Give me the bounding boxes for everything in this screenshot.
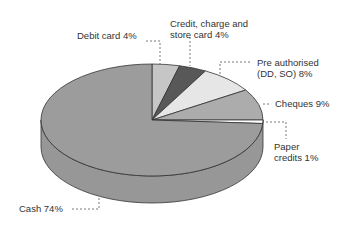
label-debit-card: Debit card 4% [77, 30, 137, 41]
label-credit-line2: store card 4% [170, 29, 229, 40]
label-cash: Cash 74% [19, 203, 63, 214]
leader-preauth [220, 62, 250, 74]
label-cheques: Cheques 9% [275, 98, 329, 109]
label-credit-line1: Credit, charge and [170, 18, 248, 29]
label-paper-line2: credits 1% [274, 152, 318, 163]
leader-debit [146, 41, 160, 64]
label-preauth-line2: (DD, SO) 8% [257, 68, 312, 79]
leader-cash [72, 196, 99, 209]
label-paper-line1: Paper [274, 141, 299, 152]
label-preauth-line1: Pre authorised [257, 57, 319, 68]
pie-slices [41, 64, 263, 176]
leader-paper [262, 122, 286, 139]
